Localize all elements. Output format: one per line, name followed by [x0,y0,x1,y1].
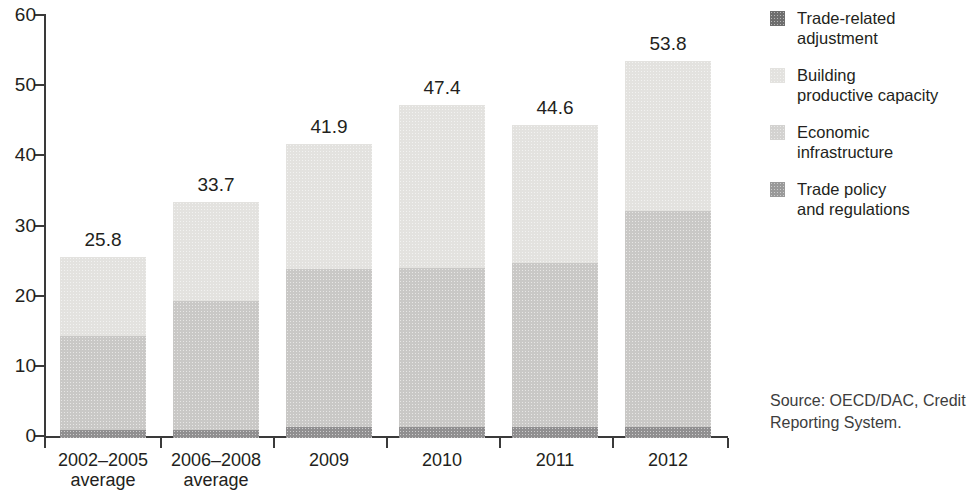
legend-swatch-building-productive-capacity [770,68,785,83]
bar-segment[interactable] [512,427,598,438]
x-axis-category-label-line1: 2009 [264,450,394,470]
bar-segment[interactable] [625,61,711,212]
legend-item-label-line1: Trade policy [797,179,910,199]
x-axis-category-label: 2010 [377,450,507,470]
chart-legend: Trade-relatedadjustmentBuildingproductiv… [770,8,968,236]
y-axis-tick [35,435,44,437]
bar-segment[interactable] [512,263,598,428]
y-axis-tick-label: 30 [0,216,36,235]
bar-segment[interactable] [173,301,259,430]
legend-item-label-line2: adjustment [797,28,895,48]
bar-value-label: 44.6 [490,98,620,117]
bar-value-label: 41.9 [264,117,394,136]
legend-item-label: Trade policyand regulations [797,179,910,219]
bar-segment[interactable] [625,427,711,438]
legend-swatch-trade-related-adjustment [770,11,785,26]
legend-item-label: Trade-relatedadjustment [797,8,895,48]
y-axis-tick [35,225,44,227]
x-axis-tick [160,438,162,448]
source-line-2: Reporting System. [770,412,968,434]
legend-item-label-line1: Building [797,65,938,85]
x-axis-tick [44,438,46,448]
x-axis-category-label: 2012 [603,450,733,470]
bar-segment[interactable] [60,257,146,336]
bar-stack[interactable] [286,144,372,438]
legend-item-label-line2: and regulations [797,199,910,219]
x-axis-tick [727,438,729,448]
y-axis-tick-label: 40 [0,145,36,164]
x-axis-category-label: 2002–2005average [38,450,168,490]
x-axis-category-label: 2011 [490,450,620,470]
y-axis-tick [35,84,44,86]
legend-item-label-line1: Economic infrastructure [797,122,968,162]
x-axis-category-label: 2006–2008average [151,450,281,490]
bar-segment[interactable] [60,430,146,438]
x-axis-tick [386,438,388,448]
x-axis-category-label-line1: 2006–2008 [151,450,281,470]
bar-value-label: 25.8 [38,230,168,249]
bar-segment[interactable] [399,427,485,438]
y-axis-tick [35,365,44,367]
x-axis-category-label-line2: average [151,470,281,490]
y-axis-tick-label: 50 [0,75,36,94]
bar-value-label: 47.4 [377,78,507,97]
source-note: Source: OECD/DAC, Credit Reporting Syste… [770,390,968,434]
legend-item[interactable]: Economic infrastructure [770,122,968,162]
legend-item-label-line1: Trade-related [797,8,895,28]
x-axis-category-label-line1: 2010 [377,450,507,470]
legend-item-label: Buildingproductive capacity [797,65,938,105]
bar-segment[interactable] [512,125,598,263]
y-axis-tick [35,14,44,16]
x-axis-category-label-line1: 2011 [490,450,620,470]
bar-segment[interactable] [173,430,259,438]
bar-segment[interactable] [286,144,372,269]
bar-segment[interactable] [399,268,485,427]
bar-segment[interactable] [625,211,711,427]
stacked-bar-chart: 6050403020100 25.833.741.947.444.653.8 2… [0,0,760,487]
x-axis-category-label-line1: 2002–2005 [38,450,168,470]
legend-item[interactable]: Trade-relatedadjustment [770,8,968,48]
bar-segment[interactable] [286,427,372,438]
x-axis-tick [273,438,275,448]
legend-swatch-economic-infrastructure [770,125,785,140]
bar-stack[interactable] [399,105,485,438]
bar-segment[interactable] [399,105,485,268]
y-axis-tick-label: 60 [0,5,36,24]
bar-value-label: 53.8 [603,34,733,53]
y-axis-line [44,14,46,438]
y-axis-tick [35,154,44,156]
y-axis-tick-label: 0 [0,426,36,445]
x-axis-category-label: 2009 [264,450,394,470]
bar-segment[interactable] [286,269,372,427]
x-axis-category-label-line1: 2012 [603,450,733,470]
x-axis-tick [612,438,614,448]
y-axis-tick-label: 10 [0,356,36,375]
legend-item[interactable]: Trade policyand regulations [770,179,968,219]
legend-item-label: Economic infrastructure [797,122,968,162]
legend-swatch-trade-policy-and-regulations [770,182,785,197]
legend-item-label-line2: productive capacity [797,85,938,105]
x-axis-tick [499,438,501,448]
bar-segment[interactable] [173,202,259,301]
bar-stack[interactable] [60,257,146,438]
y-axis-tick [35,295,44,297]
legend-item[interactable]: Buildingproductive capacity [770,65,968,105]
x-axis-category-label-line2: average [38,470,168,490]
source-line-1: Source: OECD/DAC, Credit [770,390,968,412]
bar-value-label: 33.7 [151,175,281,194]
bar-segment[interactable] [60,336,146,429]
y-axis-tick-label: 20 [0,286,36,305]
bar-stack[interactable] [625,61,711,438]
bar-stack[interactable] [512,125,598,438]
bar-stack[interactable] [173,202,259,438]
